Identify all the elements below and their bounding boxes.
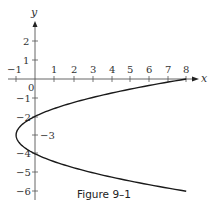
- x-tick-label: 7: [165, 64, 171, 75]
- x-axis-arrow-icon: [192, 77, 199, 82]
- x-tick-label: −1: [7, 64, 22, 75]
- x-tick-label: 6: [146, 64, 152, 75]
- x-tick-label: 2: [71, 64, 77, 75]
- x-tick-label: 3: [90, 64, 96, 75]
- y-axis-label: y: [30, 6, 38, 19]
- y-tick-label: −3: [40, 130, 55, 141]
- x-tick-label: 4: [109, 64, 115, 75]
- x-tick-label: 1: [51, 64, 57, 75]
- y-tick-label: 1: [23, 55, 29, 66]
- y-axis-arrow-icon: [33, 21, 38, 27]
- figure-caption: Figure 9–1: [77, 188, 131, 200]
- origin-label: 0: [28, 82, 34, 93]
- x-tick-label: 5: [127, 64, 133, 75]
- x-axis-label: x: [201, 72, 208, 85]
- y-tick-label: −6: [16, 186, 31, 197]
- x-tick-label: 8: [183, 64, 189, 75]
- y-tick-label: −5: [16, 167, 31, 178]
- y-tick-label: −2: [16, 112, 31, 123]
- y-tick-label: 2: [23, 36, 29, 47]
- chart-canvas: x y −1 1 2 3 4 5 6 7 8 0 2 1 −1 −2 −3 −4…: [0, 0, 210, 208]
- y-tick-label: −1: [16, 93, 31, 104]
